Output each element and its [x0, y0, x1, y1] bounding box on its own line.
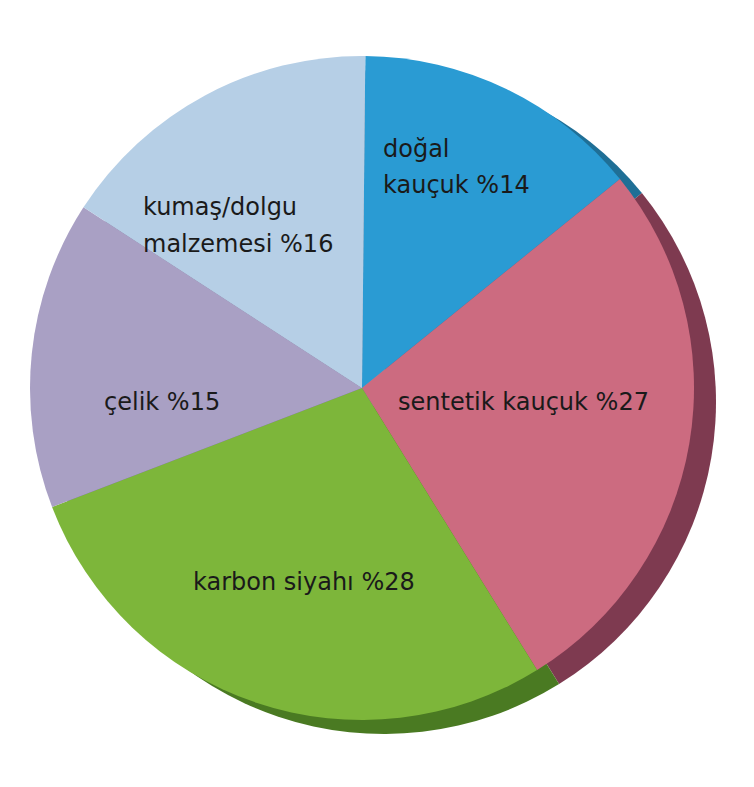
pie-chart: doğal kauçuk %14 sentetik kauçuk %27 kar…	[0, 0, 754, 787]
label-sentetik-kaucuk: sentetik kauçuk %27	[398, 388, 649, 416]
label-kumas-dolgu-line1: kumaş/dolgu	[143, 193, 297, 221]
label-kumas-dolgu-line2: malzemesi %16	[143, 230, 333, 258]
label-celik: çelik %15	[104, 388, 220, 416]
label-karbon-siyahi: karbon siyahı %28	[193, 568, 415, 596]
label-dogal-kaucuk-line2: kauçuk %14	[383, 171, 530, 199]
label-dogal-kaucuk-line1: doğal	[383, 135, 450, 163]
